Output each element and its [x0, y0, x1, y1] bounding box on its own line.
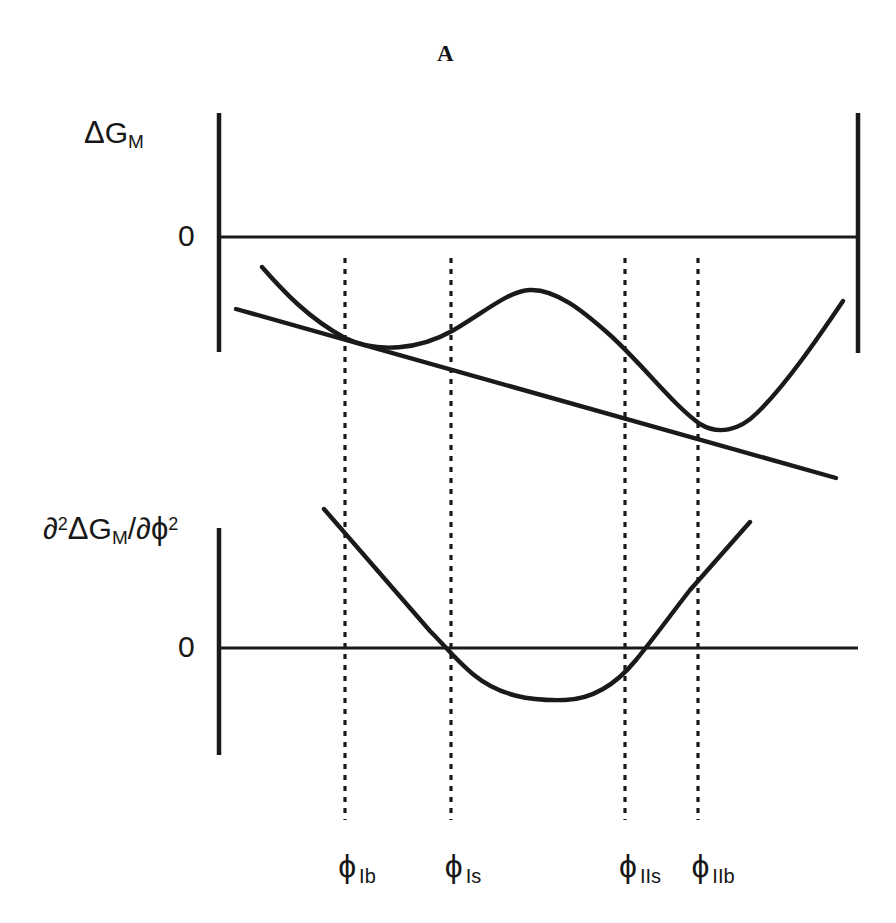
- vertical-guide-lines: [345, 258, 698, 820]
- phi-subscript: IIs: [640, 865, 661, 887]
- lower-zero-tick-label: 0: [178, 632, 195, 662]
- figure-container: A ΔGM: [0, 0, 896, 923]
- phi-glyph: ϕ: [691, 848, 709, 884]
- delta-glyph-lower: Δ: [68, 511, 89, 546]
- phi-subscript: IIb: [712, 865, 734, 887]
- free-energy-curve: [262, 267, 843, 430]
- second-derivative-curve: [324, 509, 750, 700]
- gibbs-subscript-m-lower: M: [112, 527, 128, 548]
- lower-y-axis-label: ∂2ΔGM/∂ϕ2: [43, 513, 178, 547]
- denominator-exponent: 2: [168, 514, 178, 534]
- upper-zero-tick-label: 0: [178, 221, 195, 251]
- phi-glyph: ϕ: [338, 848, 356, 884]
- phi-glyph: ϕ: [445, 848, 463, 884]
- x-tick-label-phi-IIb: ϕIIb: [691, 850, 734, 886]
- upper-y-axis-label: ΔGM: [84, 117, 144, 151]
- numerator-exponent: 2: [58, 514, 68, 534]
- phi-glyph-denominator: ϕ: [151, 511, 168, 546]
- common-tangent-line: [236, 309, 836, 478]
- delta-glyph: Δ: [84, 115, 105, 150]
- gibbs-g-glyph: G: [105, 116, 128, 149]
- partial-denominator-glyph: ∂: [136, 512, 151, 545]
- phi-subscript: Ib: [359, 865, 376, 887]
- x-tick-label-phi-Is: ϕIs: [445, 850, 481, 886]
- x-tick-label-phi-IIs: ϕIIs: [619, 850, 661, 886]
- upper-panel-group: [219, 113, 858, 478]
- fraction-slash: /: [128, 512, 136, 545]
- lower-panel-group: [219, 509, 858, 755]
- phi-subscript: Is: [466, 865, 482, 887]
- partial-numerator-glyph: ∂: [43, 512, 58, 545]
- gibbs-subscript-m: M: [128, 131, 144, 152]
- x-tick-label-phi-Ib: ϕIb: [338, 850, 376, 886]
- phi-glyph: ϕ: [619, 848, 637, 884]
- gibbs-g-glyph-lower: G: [89, 512, 112, 545]
